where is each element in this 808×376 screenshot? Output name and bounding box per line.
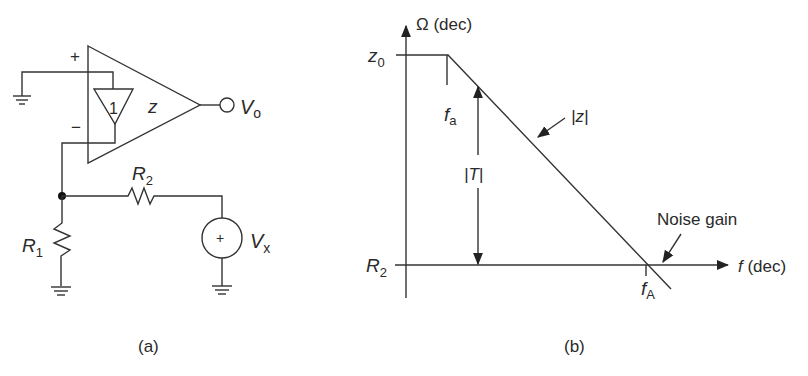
r2-tick-label: R2 (366, 255, 387, 280)
amp-z-label: z (147, 96, 158, 117)
circuit-diagram: 1 z + − Vo R2 + Vx (13, 46, 270, 356)
source-plus-sign: + (216, 230, 224, 246)
figure-canvas: 1 z + − Vo R2 + Vx (0, 0, 808, 376)
ground-icon (212, 286, 232, 294)
z-curve-label: |z| (571, 107, 588, 126)
ground-icon (13, 96, 31, 104)
loop-gain-label: |T| (464, 165, 483, 184)
plus-input-label: + (70, 47, 80, 66)
resistor-r1 (54, 196, 70, 286)
ground-icon (51, 287, 71, 295)
z0-tick-label: z0 (367, 45, 385, 70)
r1-label: R1 (22, 235, 43, 260)
opamp-triangle (88, 46, 200, 163)
fa-label: fa (444, 104, 457, 128)
source-label: Vx (250, 230, 270, 256)
output-terminal (220, 98, 234, 112)
fA-label: fA (641, 278, 655, 302)
bode-plot: Ω (dec) f (dec) R2 z0 fa |T| |z| Noise g… (366, 15, 786, 356)
r2-label: R2 (132, 163, 153, 188)
plus-input-wire (22, 72, 113, 96)
y-axis-label: Ω (dec) (416, 15, 472, 34)
z-magnitude-curve (396, 55, 671, 289)
x-axis-label: f (dec) (738, 257, 786, 276)
caption-a: (a) (138, 337, 159, 356)
resistor-r2 (62, 188, 222, 218)
noise-gain-pointer-arrow (663, 234, 681, 262)
caption-b: (b) (564, 337, 585, 356)
output-label: Vo (240, 96, 261, 121)
z-pointer-arrow (538, 118, 565, 137)
noise-gain-label: Noise gain (657, 210, 737, 229)
buffer-gain-label: 1 (109, 100, 118, 117)
minus-input-label: − (71, 118, 81, 137)
